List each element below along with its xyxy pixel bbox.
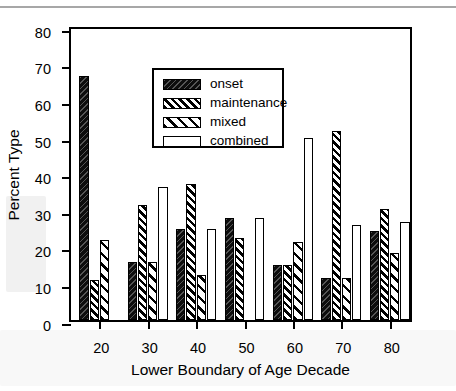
x-tick-label-80: 80 (384, 341, 400, 356)
y-tick-label-0: 0 (43, 318, 51, 333)
bar-maintenance-40 (186, 184, 195, 320)
x-tick-label-70: 70 (335, 341, 351, 356)
y-tick-label-70: 70 (35, 62, 51, 77)
y-tick-label-30: 30 (35, 209, 51, 224)
x-tick-label-60: 60 (287, 341, 303, 356)
y-tick-label-60: 60 (35, 99, 51, 114)
y-tick-label-50: 50 (35, 135, 51, 150)
bar-maintenance-20 (90, 280, 99, 320)
bar-onset-30 (128, 262, 137, 320)
chart-legend: onset maintenance mixed combined (152, 68, 284, 148)
x-tick-label-20: 20 (93, 341, 109, 356)
x-tick-80: 80 (390, 320, 392, 329)
y-tick-70: 70 (62, 67, 71, 69)
legend-item-mixed: mixed (163, 113, 282, 131)
legend-label-onset: onset (210, 77, 243, 91)
bar-combined-60 (304, 138, 313, 320)
bar-mixed-80 (390, 253, 399, 320)
bar-onset-50 (225, 218, 234, 320)
legend-swatch-onset (163, 79, 201, 90)
x-axis-title: Lower Boundary of Age Decade (69, 361, 412, 379)
bar-maintenance-70 (332, 131, 341, 320)
chart-page: Percent Type 0 10 20 30 40 50 60 70 80 2… (0, 0, 456, 391)
y-tick-20: 20 (62, 250, 71, 252)
bar-maintenance-60 (283, 265, 292, 320)
bar-mixed-60 (293, 242, 302, 320)
bar-onset-40 (176, 229, 185, 320)
x-tick-label-50: 50 (238, 341, 254, 356)
x-tick-label-40: 40 (190, 341, 206, 356)
bar-mixed-30 (148, 262, 157, 320)
y-axis-title: Percent Type (4, 27, 24, 322)
legend-label-combined: combined (210, 134, 269, 148)
y-tick-label-80: 80 (35, 26, 51, 41)
bar-combined-40 (207, 229, 216, 320)
bar-combined-70 (352, 225, 361, 320)
x-tick-20: 20 (99, 320, 101, 329)
bar-onset-70 (321, 278, 330, 320)
y-tick-label-10: 10 (35, 282, 51, 297)
bar-onset-20 (79, 76, 88, 320)
bar-mixed-20 (100, 240, 109, 320)
legend-item-onset: onset (163, 75, 282, 93)
plot-area: 0 10 20 30 40 50 60 70 80 20304050607080… (69, 27, 412, 322)
legend-swatch-combined (163, 136, 201, 147)
y-tick-40: 40 (62, 177, 71, 179)
bar-combined-80 (400, 222, 409, 320)
page-header-text (6, 0, 266, 6)
bar-onset-60 (273, 265, 282, 320)
legend-label-maintenance: maintenance (210, 96, 287, 110)
y-tick-60: 60 (62, 104, 71, 106)
page-top-rule (0, 6, 456, 8)
legend-swatch-maintenance (163, 98, 201, 109)
y-axis-title-label: Percent Type (5, 129, 23, 220)
bar-combined-50 (255, 218, 264, 320)
bar-mixed-70 (342, 278, 351, 320)
x-tick-label-30: 30 (142, 341, 158, 356)
y-tick-label-40: 40 (35, 172, 51, 187)
y-tick-10: 10 (62, 287, 71, 289)
y-tick-0: 0 (62, 324, 71, 326)
y-tick-50: 50 (62, 141, 71, 143)
bar-onset-80 (370, 231, 379, 320)
x-tick-60: 60 (293, 320, 295, 329)
bar-mixed-40 (197, 275, 206, 320)
legend-item-maintenance: maintenance (163, 94, 282, 112)
x-tick-40: 40 (196, 320, 198, 329)
bar-maintenance-80 (380, 209, 389, 320)
legend-swatch-mixed (163, 117, 201, 128)
bar-maintenance-50 (235, 238, 244, 320)
y-tick-label-20: 20 (35, 245, 51, 260)
x-tick-50: 50 (245, 320, 247, 329)
x-tick-30: 30 (148, 320, 150, 329)
y-tick-30: 30 (62, 214, 71, 216)
legend-label-mixed: mixed (210, 115, 246, 129)
legend-item-combined: combined (163, 132, 282, 150)
x-tick-70: 70 (341, 320, 343, 329)
bar-combined-30 (158, 187, 167, 320)
y-tick-80: 80 (62, 31, 71, 33)
bar-maintenance-30 (138, 205, 147, 320)
